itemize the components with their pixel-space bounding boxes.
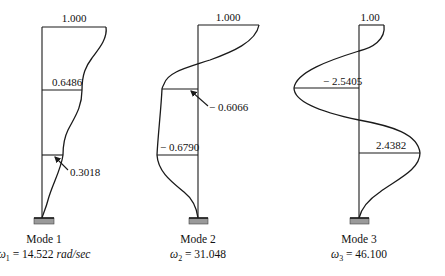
mode-3-low-label: 2.4382	[376, 139, 406, 151]
mode-2-arrow	[191, 91, 208, 106]
mode-1-diagram: 1.000 0.6486 0.3018 Mode 1 ω1 = 14.522 r…	[0, 12, 106, 263]
mode-1-low-label: 0.3018	[70, 166, 101, 178]
mode-3-top-label: 1.00	[360, 11, 380, 23]
mode-2-diagram: 1.000 − 0.6066 − 0.6790 Mode 2 ω2 = 31.0…	[157, 11, 259, 263]
mode-1-fixed-support	[34, 218, 54, 224]
mode-2-title: Mode 2	[180, 233, 216, 245]
mode-3-mid-label: − 2.5405	[323, 75, 363, 87]
omega-value: = 46.100	[343, 248, 387, 260]
mode-2-frequency: ω2 = 31.048	[170, 248, 226, 263]
mode-3-title: Mode 3	[341, 233, 377, 245]
mode-1-top-label: 1.000	[62, 12, 87, 24]
omega-value: = 14.522	[10, 248, 57, 260]
mode-1-title: Mode 1	[26, 233, 62, 245]
mode-3-shape-curve	[294, 25, 420, 218]
omega-unit: rad/sec	[57, 248, 91, 260]
mode-2-top-label: 1.000	[216, 11, 241, 23]
mode-1-arrow	[55, 157, 68, 170]
omega-value: = 31.048	[182, 248, 226, 260]
mode-1-shape-curve	[42, 27, 106, 218]
mode-2-low-label: − 0.6790	[160, 141, 200, 153]
omega-symbol: ω	[331, 248, 339, 260]
mode-1-frequency: ω1 = 14.522 rad/sec	[0, 248, 90, 263]
mode-2-mid-label: − 0.6066	[209, 101, 249, 113]
mode-2-shape-curve	[157, 25, 259, 218]
mode-2-fixed-support	[189, 218, 208, 224]
mode-shapes-diagram: 1.000 0.6486 0.3018 Mode 1 ω1 = 14.522 r…	[0, 0, 445, 276]
mode-3-frequency: ω3 = 46.100	[331, 248, 387, 263]
mode-1-mid-label: 0.6486	[52, 76, 83, 88]
omega-symbol: ω	[170, 248, 178, 260]
mode-3-diagram: 1.00 − 2.5405 2.4382 Mode 3 ω3 = 46.100	[294, 11, 420, 263]
mode-3-fixed-support	[350, 218, 369, 224]
